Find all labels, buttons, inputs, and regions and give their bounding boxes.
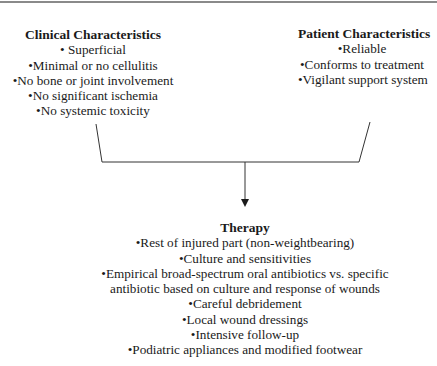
- merge-bracket: [96, 122, 370, 162]
- clinical-item: •No systemic toxicity: [8, 103, 178, 118]
- therapy-item: •Culture and sensitivities: [95, 251, 395, 266]
- therapy-item: •Local wound dressings: [95, 312, 395, 327]
- patient-title: Patient Characteristics: [298, 26, 426, 41]
- clinical-item: •Minimal or no cellulitis: [8, 58, 178, 73]
- clinical-item: •No significant ischemia: [8, 88, 178, 103]
- patient-item: •Conforms to treatment: [298, 57, 426, 72]
- patient-item: •Vigilant support system: [298, 72, 426, 87]
- clinical-characteristics-block: Clinical Characteristics • Superficial •…: [8, 27, 178, 119]
- patient-characteristics-block: Patient Characteristics •Reliable •Confo…: [298, 26, 426, 87]
- therapy-item: •Careful debridement: [95, 296, 395, 311]
- therapy-item: •Podiatric appliances and modified footw…: [95, 342, 395, 357]
- therapy-item: •Rest of injured part (non-weightbearing…: [95, 235, 395, 250]
- clinical-title: Clinical Characteristics: [8, 27, 178, 42]
- therapy-block: Therapy •Rest of injured part (non-weigh…: [95, 220, 395, 358]
- therapy-item: •Intensive follow-up: [95, 327, 395, 342]
- therapy-item: antibiotic based on culture and response…: [95, 281, 395, 296]
- arrow-down-icon: [241, 199, 249, 207]
- therapy-title: Therapy: [95, 220, 395, 235]
- therapy-item: •Empirical broad-spectrum oral antibioti…: [95, 266, 395, 281]
- patient-item: •Reliable: [298, 41, 426, 56]
- clinical-item: • Superficial: [8, 42, 178, 57]
- clinical-item: •No bone or joint involvement: [8, 73, 178, 88]
